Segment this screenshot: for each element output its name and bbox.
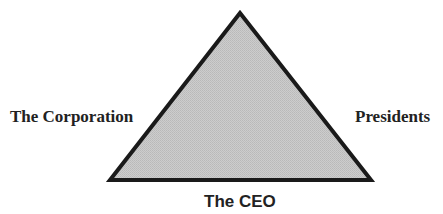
label-the-ceo: The CEO <box>204 192 276 212</box>
label-presidents: Presidents <box>355 107 430 127</box>
triangle-shape <box>110 13 371 180</box>
label-the-corporation: The Corporation <box>10 107 133 127</box>
